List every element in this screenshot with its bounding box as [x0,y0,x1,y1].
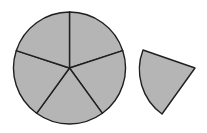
divided-circle [14,12,126,124]
diagram-canvas [0,0,207,133]
detached-sector [139,50,195,114]
